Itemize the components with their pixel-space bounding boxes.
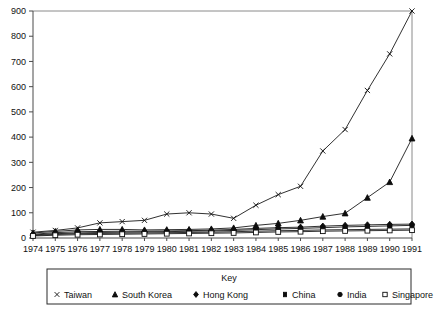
legend-item-label: Singapore [392,290,433,300]
x-tick-label: 1982 [201,244,221,254]
plot-border [33,11,412,238]
x-tick-label: 1979 [134,244,154,254]
marker-x [320,148,325,153]
marker-x [343,127,348,132]
x-tick-label: 1984 [246,244,266,254]
x-tick-label: 1975 [45,244,65,254]
marker-open-square [97,232,102,237]
chart-svg: 0100200300400500600700800900 19741975197… [0,0,445,313]
y-tick-label: 500 [11,107,26,117]
marker-x [365,88,370,93]
series-path [33,138,412,233]
series-south-korea [30,135,415,235]
marker-open-square [383,292,387,296]
legend-item-label: India [347,290,367,300]
x-tick-label: 1986 [291,244,311,254]
x-tick-label: 1989 [357,244,377,254]
marker-circle [338,292,342,296]
legend-item-label: Hong Kong [203,290,248,300]
plot-axes [33,11,412,238]
marker-open-square [31,234,36,239]
marker-open-square [53,233,58,238]
series-path [33,11,412,232]
marker-triangle [387,179,393,185]
marker-open-square [75,232,80,237]
x-tick-label: 1978 [112,244,132,254]
x-tick-label: 1976 [68,244,88,254]
x-tick-label: 1977 [90,244,110,254]
legend-item-label: China [292,290,316,300]
x-tick-label: 1985 [268,244,288,254]
marker-open-square [209,231,214,236]
legend-item-label: Taiwan [64,290,92,300]
marker-open-square [231,231,236,236]
x-axis-labels: 1974197519761977197819791980198119821983… [23,244,422,254]
series-taiwan [30,8,414,234]
marker-small-square [284,292,287,296]
marker-open-square [387,228,392,233]
marker-open-square [142,232,147,237]
marker-triangle [365,195,371,201]
y-tick-label: 100 [11,208,26,218]
x-tick-label: 1988 [335,244,355,254]
marker-x [253,203,258,208]
legend-title: Key [221,273,237,283]
y-tick-label: 700 [11,57,26,67]
y-tick-label: 200 [11,183,26,193]
legend-item-south-korea[interactable]: South Korea [112,290,172,300]
marker-circle [410,223,415,228]
y-tick-label: 400 [11,132,26,142]
x-tick-label: 1980 [157,244,177,254]
y-axis-ticks [29,11,33,238]
marker-triangle [342,210,348,216]
marker-x [298,184,303,189]
marker-open-square [365,228,370,233]
marker-open-square [120,232,125,237]
y-tick-label: 300 [11,158,26,168]
marker-open-square [254,230,259,235]
marker-x [387,51,392,56]
marker-open-square [410,228,415,233]
marker-open-square [187,231,192,236]
y-tick-label: 900 [11,6,26,16]
x-tick-label: 1974 [23,244,43,254]
marker-x [276,192,281,197]
x-tick-label: 1987 [313,244,333,254]
marker-open-square [343,229,348,234]
marker-open-square [298,229,303,234]
plot-frame [33,11,412,238]
y-axis-labels: 0100200300400500600700800900 [11,6,26,243]
data-series-group [30,8,415,238]
marker-open-square [276,230,281,235]
marker-open-square [320,229,325,234]
marker-circle [387,223,392,228]
y-tick-label: 600 [11,82,26,92]
y-tick-label: 0 [21,233,26,243]
legend-item-label: South Korea [122,290,172,300]
x-tick-label: 1983 [224,244,244,254]
x-tick-label: 1981 [179,244,199,254]
marker-triangle [409,135,415,141]
x-tick-label: 1991 [402,244,422,254]
y-tick-label: 800 [11,31,26,41]
chart-legend: KeyTaiwanSouth KoreaHong KongChinaIndiaS… [47,269,433,304]
marker-open-square [164,231,169,236]
x-tick-label: 1990 [380,244,400,254]
line-chart: 0100200300400500600700800900 19741975197… [0,0,445,313]
